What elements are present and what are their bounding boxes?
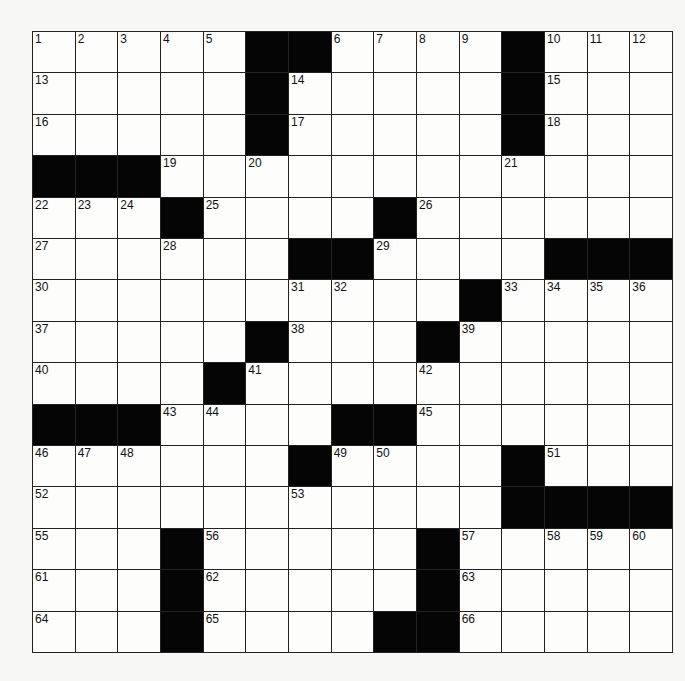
grid-cell[interactable] <box>460 487 502 527</box>
grid-cell[interactable]: 65 <box>204 612 246 652</box>
grid-cell[interactable]: 24 <box>118 198 160 238</box>
grid-cell[interactable] <box>118 280 160 320</box>
grid-cell[interactable] <box>630 570 672 610</box>
grid-cell[interactable] <box>76 239 118 279</box>
grid-cell[interactable] <box>502 239 544 279</box>
grid-cell[interactable] <box>246 612 288 652</box>
grid-cell[interactable]: 25 <box>204 198 246 238</box>
grid-cell[interactable]: 8 <box>417 32 459 72</box>
grid-cell[interactable] <box>76 487 118 527</box>
grid-cell[interactable] <box>460 115 502 155</box>
grid-cell[interactable]: 21 <box>502 156 544 196</box>
grid-cell[interactable] <box>460 73 502 113</box>
grid-cell[interactable] <box>374 570 416 610</box>
grid-cell[interactable] <box>417 73 459 113</box>
grid-cell[interactable] <box>76 73 118 113</box>
grid-cell[interactable]: 66 <box>460 612 502 652</box>
grid-cell[interactable]: 55 <box>33 529 75 569</box>
grid-cell[interactable] <box>204 322 246 362</box>
grid-cell[interactable]: 41 <box>246 363 288 403</box>
grid-cell[interactable]: 46 <box>33 446 75 486</box>
grid-cell[interactable] <box>204 446 246 486</box>
grid-cell[interactable]: 26 <box>417 198 459 238</box>
grid-cell[interactable] <box>374 487 416 527</box>
grid-cell[interactable] <box>289 198 331 238</box>
grid-cell[interactable]: 60 <box>630 529 672 569</box>
grid-cell[interactable]: 16 <box>33 115 75 155</box>
grid-cell[interactable] <box>545 156 587 196</box>
grid-cell[interactable] <box>118 239 160 279</box>
grid-cell[interactable] <box>118 529 160 569</box>
grid-cell[interactable] <box>502 405 544 445</box>
grid-cell[interactable] <box>588 156 630 196</box>
grid-cell[interactable] <box>417 239 459 279</box>
grid-cell[interactable] <box>417 487 459 527</box>
grid-cell[interactable] <box>374 322 416 362</box>
grid-cell[interactable] <box>630 405 672 445</box>
grid-cell[interactable]: 31 <box>289 280 331 320</box>
grid-cell[interactable]: 5 <box>204 32 246 72</box>
grid-cell[interactable] <box>332 115 374 155</box>
grid-cell[interactable]: 30 <box>33 280 75 320</box>
grid-cell[interactable]: 27 <box>33 239 75 279</box>
grid-cell[interactable] <box>545 405 587 445</box>
grid-cell[interactable]: 53 <box>289 487 331 527</box>
grid-cell[interactable]: 6 <box>332 32 374 72</box>
grid-cell[interactable] <box>118 322 160 362</box>
grid-cell[interactable]: 2 <box>76 32 118 72</box>
grid-cell[interactable]: 7 <box>374 32 416 72</box>
grid-cell[interactable] <box>460 239 502 279</box>
grid-cell[interactable] <box>76 322 118 362</box>
grid-cell[interactable] <box>630 156 672 196</box>
grid-cell[interactable] <box>332 363 374 403</box>
grid-cell[interactable]: 22 <box>33 198 75 238</box>
grid-cell[interactable] <box>118 612 160 652</box>
grid-cell[interactable] <box>417 115 459 155</box>
grid-cell[interactable] <box>332 570 374 610</box>
grid-cell[interactable]: 1 <box>33 32 75 72</box>
grid-cell[interactable] <box>76 570 118 610</box>
grid-cell[interactable] <box>246 239 288 279</box>
grid-cell[interactable]: 52 <box>33 487 75 527</box>
grid-cell[interactable]: 50 <box>374 446 416 486</box>
grid-cell[interactable] <box>332 487 374 527</box>
grid-cell[interactable] <box>332 73 374 113</box>
grid-cell[interactable] <box>545 612 587 652</box>
grid-cell[interactable] <box>161 446 203 486</box>
grid-cell[interactable] <box>118 73 160 113</box>
grid-cell[interactable] <box>630 73 672 113</box>
grid-cell[interactable] <box>76 115 118 155</box>
grid-cell[interactable] <box>76 612 118 652</box>
grid-cell[interactable] <box>204 487 246 527</box>
grid-cell[interactable] <box>289 363 331 403</box>
grid-cell[interactable] <box>502 529 544 569</box>
grid-cell[interactable] <box>246 198 288 238</box>
grid-cell[interactable]: 28 <box>161 239 203 279</box>
grid-cell[interactable] <box>76 363 118 403</box>
grid-cell[interactable] <box>417 446 459 486</box>
grid-cell[interactable] <box>374 529 416 569</box>
grid-cell[interactable]: 51 <box>545 446 587 486</box>
grid-cell[interactable]: 61 <box>33 570 75 610</box>
grid-cell[interactable] <box>374 363 416 403</box>
grid-cell[interactable] <box>630 446 672 486</box>
grid-cell[interactable]: 29 <box>374 239 416 279</box>
grid-cell[interactable] <box>460 446 502 486</box>
grid-cell[interactable] <box>545 322 587 362</box>
grid-cell[interactable]: 33 <box>502 280 544 320</box>
grid-cell[interactable] <box>502 198 544 238</box>
grid-cell[interactable] <box>118 115 160 155</box>
grid-cell[interactable] <box>289 570 331 610</box>
grid-cell[interactable] <box>332 156 374 196</box>
grid-cell[interactable]: 10 <box>545 32 587 72</box>
grid-cell[interactable] <box>588 198 630 238</box>
grid-cell[interactable] <box>161 322 203 362</box>
grid-cell[interactable] <box>289 405 331 445</box>
grid-cell[interactable] <box>246 529 288 569</box>
grid-cell[interactable] <box>204 73 246 113</box>
grid-cell[interactable] <box>289 612 331 652</box>
grid-cell[interactable] <box>204 239 246 279</box>
grid-cell[interactable] <box>246 405 288 445</box>
grid-cell[interactable] <box>374 156 416 196</box>
grid-cell[interactable] <box>460 363 502 403</box>
